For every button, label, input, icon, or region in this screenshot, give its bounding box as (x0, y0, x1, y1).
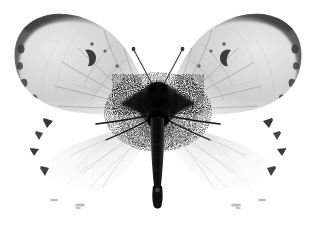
specimen-soft-shadow (138, 82, 178, 142)
right-antenna-club (181, 47, 185, 52)
butterfly-radiograph-image (0, 0, 316, 231)
left-antenna-club (132, 47, 136, 52)
radiograph-viewport: X-ray radiograph of a spread butterfly s… (0, 0, 316, 231)
abdomen-segment-highlight (155, 188, 160, 193)
abdomen-terminal (154, 202, 162, 209)
